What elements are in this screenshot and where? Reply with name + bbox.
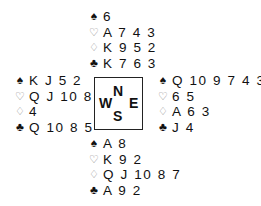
compass-north-label: N [113,84,123,98]
diamond-icon: ♢ [14,104,26,119]
spade-icon: ♠ [88,136,100,151]
heart-icon: ♡ [157,89,169,104]
west-clubs-cards: Q 10 8 5 [29,120,94,135]
club-icon: ♣ [157,120,169,135]
east-hearts-cards: 6 5 [172,89,196,104]
north-clubs-cards: K 7 6 3 [103,56,157,71]
club-icon: ♣ [88,56,100,71]
south-spades-cards: A 8 [103,136,127,151]
diamond-icon: ♢ [88,40,100,55]
spade-icon: ♠ [88,9,100,24]
west-diamonds-cards: 4 [29,104,38,119]
heart-icon: ♡ [88,152,100,167]
diamond-icon: ♢ [157,104,169,119]
north-hearts-cards: A 7 4 3 [103,25,156,40]
east-clubs-cards: J 4 [172,120,195,135]
spade-icon: ♠ [14,73,26,88]
south-hearts-cards: K 9 2 [103,152,143,167]
west-hearts-cards: Q J 10 8 [29,89,93,104]
compass-box: N W E S [94,77,143,130]
north-spades-cards: 6 [103,9,112,24]
club-icon: ♣ [88,183,100,198]
spade-icon: ♠ [157,73,169,88]
club-icon: ♣ [14,120,26,135]
diamond-icon: ♢ [88,167,100,182]
east-diamonds-cards: A 6 3 [172,104,211,119]
heart-icon: ♡ [14,89,26,104]
west-spades-cards: K J 5 2 [29,73,82,88]
heart-icon: ♡ [88,25,100,40]
compass-west-label: W [99,96,112,110]
compass-east-label: E [129,96,138,110]
south-clubs-cards: A 9 2 [103,183,142,198]
east-spades-cards: Q 10 9 7 4 3 [172,73,261,88]
compass-south-label: S [113,109,122,123]
south-diamonds-cards: Q J 10 8 7 [103,167,181,182]
north-diamonds-cards: K 9 5 2 [103,40,157,55]
